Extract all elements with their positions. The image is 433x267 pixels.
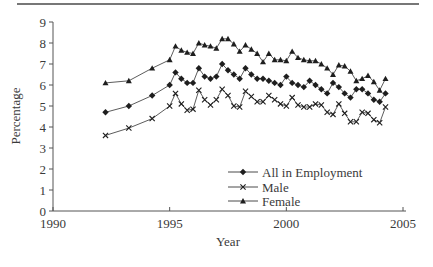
series-female <box>103 36 389 93</box>
diamond-marker-icon <box>382 90 388 96</box>
y-axis-title: Percentage <box>8 87 23 144</box>
x-tick-label: 2005 <box>390 216 416 231</box>
triangle-marker-icon <box>318 61 324 66</box>
x-marker-icon <box>214 97 219 102</box>
triangle-marker-icon <box>196 40 202 45</box>
diamond-marker-icon <box>330 80 336 86</box>
x-marker-icon <box>150 116 155 121</box>
triangle-marker-icon <box>260 59 266 64</box>
triangle-marker-icon <box>324 65 330 70</box>
triangle-marker-icon <box>383 76 389 81</box>
triangle-marker-icon <box>365 73 371 78</box>
legend-item-female: Female <box>228 194 300 209</box>
triangle-marker-icon <box>336 62 342 67</box>
diamond-marker-icon <box>318 86 324 92</box>
triangle-marker-icon <box>178 47 184 52</box>
diamond-marker-icon <box>271 80 277 86</box>
x-marker-icon <box>220 87 225 92</box>
x-marker-icon <box>225 93 230 98</box>
diamond-marker-icon <box>166 82 172 88</box>
x-marker-icon <box>208 102 213 107</box>
axes <box>53 22 406 211</box>
diamond-marker-icon <box>213 73 219 79</box>
diamond-marker-icon <box>102 109 108 115</box>
x-marker-icon <box>290 95 295 100</box>
y-tick-label: 4 <box>40 120 47 135</box>
diamond-marker-icon <box>376 99 382 105</box>
legend-item-all-in-employment: All in Employment <box>228 165 363 180</box>
x-marker-icon <box>342 111 347 116</box>
triangle-marker-icon <box>377 87 383 92</box>
x-marker-icon <box>336 101 341 106</box>
series-group <box>102 36 388 138</box>
triangle-marker-icon <box>289 48 295 53</box>
diamond-marker-icon <box>324 90 330 96</box>
x-marker-icon <box>284 103 289 108</box>
line-chart: 0123456789 1990199520002005 Percentage Y… <box>0 0 433 267</box>
y-tick-label: 3 <box>40 141 47 156</box>
diamond-marker-icon <box>266 78 272 84</box>
x-marker-icon <box>202 97 207 102</box>
x-marker-icon <box>126 125 131 130</box>
triangle-marker-icon <box>254 51 260 56</box>
diamond-marker-icon <box>295 82 301 88</box>
y-tick-label: 6 <box>40 78 47 93</box>
triangle-marker-icon <box>243 42 249 47</box>
x-marker-icon <box>383 104 388 109</box>
diamond-marker-icon <box>240 169 246 175</box>
x-marker-icon <box>266 93 271 98</box>
triangle-marker-icon <box>184 49 190 54</box>
x-marker-icon <box>295 102 300 107</box>
x-marker-icon <box>325 110 330 115</box>
legend-item-male: Male <box>228 180 289 195</box>
x-tick-label: 1990 <box>40 216 66 231</box>
diamond-marker-icon <box>207 76 213 82</box>
triangle-marker-icon <box>167 57 173 62</box>
y-tick-label: 7 <box>40 57 47 72</box>
y-tick-label: 8 <box>40 36 47 51</box>
triangle-marker-icon <box>266 51 272 56</box>
triangle-marker-icon <box>248 46 254 51</box>
diamond-marker-icon <box>312 82 318 88</box>
diamond-marker-icon <box>184 80 190 86</box>
y-tick-label: 2 <box>40 162 47 177</box>
x-marker-icon <box>103 133 108 138</box>
series-all-in-employment <box>102 61 388 116</box>
diamond-marker-icon <box>236 76 242 82</box>
x-axis-title: Year <box>216 234 241 249</box>
y-tick-label: 9 <box>40 15 47 30</box>
x-marker-icon <box>196 88 201 93</box>
triangle-marker-icon <box>359 76 365 81</box>
x-tick-label: 1995 <box>157 216 183 231</box>
x-marker-icon <box>330 112 335 117</box>
diamond-marker-icon <box>231 71 237 77</box>
diamond-marker-icon <box>260 76 266 82</box>
diamond-marker-icon <box>149 92 155 98</box>
x-marker-icon <box>278 101 283 106</box>
x-marker-icon <box>243 89 248 94</box>
diamond-marker-icon <box>359 86 365 92</box>
diamond-marker-icon <box>126 103 132 109</box>
x-marker-icon <box>371 117 376 122</box>
y-axis-ticks: 0123456789 <box>40 15 54 219</box>
y-tick-label: 5 <box>40 99 47 114</box>
x-marker-icon <box>173 91 178 96</box>
x-marker-icon <box>377 120 382 125</box>
x-marker-icon <box>179 101 184 106</box>
diamond-marker-icon <box>240 169 246 175</box>
x-tick-label: 2000 <box>273 216 299 231</box>
diamond-marker-icon <box>347 94 353 100</box>
diamond-marker-icon <box>353 86 359 92</box>
legend-label: Female <box>262 194 300 209</box>
x-marker-icon <box>249 94 254 99</box>
diamond-marker-icon <box>201 73 207 79</box>
diamond-marker-icon <box>190 80 196 86</box>
y-tick-label: 1 <box>40 183 47 198</box>
triangle-marker-icon <box>149 65 155 70</box>
triangle-marker-icon <box>126 78 132 83</box>
legend-label: Male <box>262 180 289 195</box>
x-marker-icon <box>167 103 172 108</box>
diamond-marker-icon <box>254 76 260 82</box>
legend-label: All in Employment <box>262 165 363 180</box>
diamond-marker-icon <box>196 65 202 71</box>
